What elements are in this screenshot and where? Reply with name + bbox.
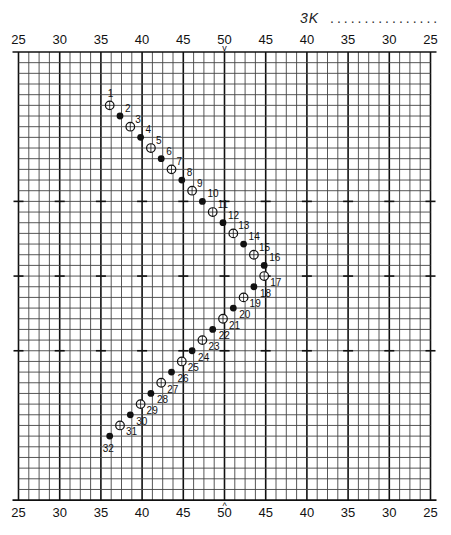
filled-dot-marker xyxy=(148,390,155,397)
point-number-label: 12 xyxy=(228,210,240,221)
point-number-label: 5 xyxy=(156,135,162,146)
filled-dot-marker xyxy=(251,283,258,290)
top-axis-label: 35 xyxy=(341,32,355,47)
point-number-label: 17 xyxy=(270,277,282,288)
top-axis-label: 30 xyxy=(52,32,66,47)
top-axis-label: 40 xyxy=(300,32,314,47)
point-number-label: 10 xyxy=(207,188,219,199)
filled-dot-marker xyxy=(230,305,237,312)
point-number-label: 9 xyxy=(197,178,203,189)
point-number-label: 21 xyxy=(229,320,241,331)
top-axis-label: 25 xyxy=(423,32,437,47)
filled-dot-marker xyxy=(106,433,113,440)
point-number-label: 23 xyxy=(208,341,220,352)
top-axis-label: 30 xyxy=(382,32,396,47)
top-axis-label: 40 xyxy=(135,32,149,47)
point-number-label: 3 xyxy=(135,114,141,125)
point-number-label: 1 xyxy=(108,88,114,99)
point-number-label: 29 xyxy=(147,405,159,416)
point-number-label: 20 xyxy=(239,309,251,320)
filled-dot-marker xyxy=(117,113,124,120)
filled-dot-marker xyxy=(261,262,268,269)
top-axis-label: 25 xyxy=(11,32,25,47)
top-axis-label: 35 xyxy=(94,32,108,47)
point-number-label: 8 xyxy=(187,167,193,178)
filled-dot-marker xyxy=(127,411,134,418)
point-number-label: 25 xyxy=(188,362,200,373)
point-number-label: 24 xyxy=(198,352,210,363)
bottom-axis-label: 35 xyxy=(341,505,355,520)
point-number-label: 14 xyxy=(249,231,261,242)
point-number-label: 22 xyxy=(219,330,231,341)
filled-dot-marker xyxy=(137,134,144,141)
filled-dot-marker xyxy=(199,198,206,205)
point-number-label: 30 xyxy=(136,416,148,427)
filled-dot-marker xyxy=(209,326,216,333)
point-number-label: 6 xyxy=(166,146,172,157)
filled-dot-marker xyxy=(220,219,227,226)
bottom-axis-label: 25 xyxy=(423,505,437,520)
numbered-points: 1234567891011121314151617181920212223242… xyxy=(103,88,282,454)
point-number-label: 2 xyxy=(125,103,131,114)
bottom-axis-label: 45 xyxy=(258,505,272,520)
bottom-axis-label: 30 xyxy=(382,505,396,520)
filled-dot-marker xyxy=(178,177,185,184)
point-number-label: 7 xyxy=(177,156,183,167)
point-number-label: 16 xyxy=(269,252,281,263)
point-number-label: 15 xyxy=(259,242,271,253)
top-axis-label: 45 xyxy=(258,32,272,47)
filled-dot-marker xyxy=(189,347,196,354)
bottom-axis-label: 30 xyxy=(52,505,66,520)
point-number-label: 19 xyxy=(250,298,262,309)
point-number-label: 18 xyxy=(260,288,272,299)
point-number-label: 11 xyxy=(218,199,229,210)
point-number-label: 32 xyxy=(103,443,115,454)
bottom-axis-label: 45 xyxy=(176,505,190,520)
bottom-axis-label: 40 xyxy=(300,505,314,520)
bottom-axis-label: 40 xyxy=(135,505,149,520)
point-number-label: 31 xyxy=(126,426,138,437)
pattern-grid-chart: 2530354045504540353025 25303540455045403… xyxy=(0,0,451,535)
bottom-axis-label: 35 xyxy=(94,505,108,520)
top-axis-label: 45 xyxy=(176,32,190,47)
point-number-label: 27 xyxy=(167,384,179,395)
point-number-label: 13 xyxy=(238,220,250,231)
point-number-label: 28 xyxy=(157,394,169,405)
filled-dot-marker xyxy=(158,155,165,162)
filled-dot-marker xyxy=(168,369,175,376)
center-marker-top: v xyxy=(222,43,227,53)
bottom-axis-label: 25 xyxy=(11,505,25,520)
point-number-label: 26 xyxy=(178,373,190,384)
filled-dot-marker xyxy=(240,241,247,248)
point-number-label: 4 xyxy=(146,124,152,135)
